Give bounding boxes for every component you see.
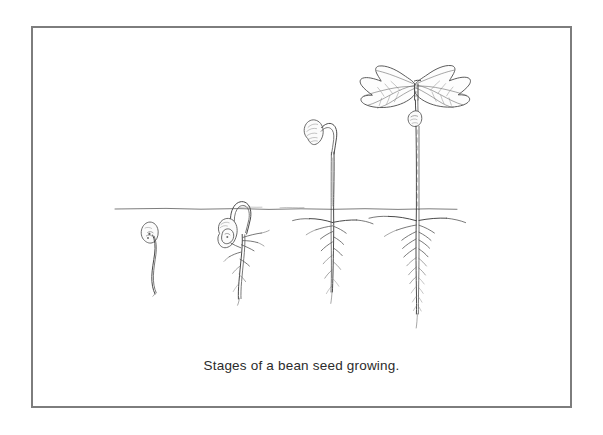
figure-root: .ink { fill: none; stroke: #4a4a4a; stro…	[0, 0, 603, 435]
stage-2-seedling-hook-emerging	[218, 202, 269, 306]
figure-frame: .ink { fill: none; stroke: #4a4a4a; stro…	[31, 26, 572, 408]
stage-4-seedling-with-leaves	[360, 65, 470, 328]
soil-line	[115, 207, 457, 209]
figure-caption: Stages of a bean seed growing.	[33, 358, 570, 373]
stage-1-germinating-seed	[141, 222, 158, 296]
stage-3-seedling-with-seed-coat	[293, 120, 373, 304]
bean-growth-illustration: .ink { fill: none; stroke: #4a4a4a; stro…	[33, 28, 574, 410]
